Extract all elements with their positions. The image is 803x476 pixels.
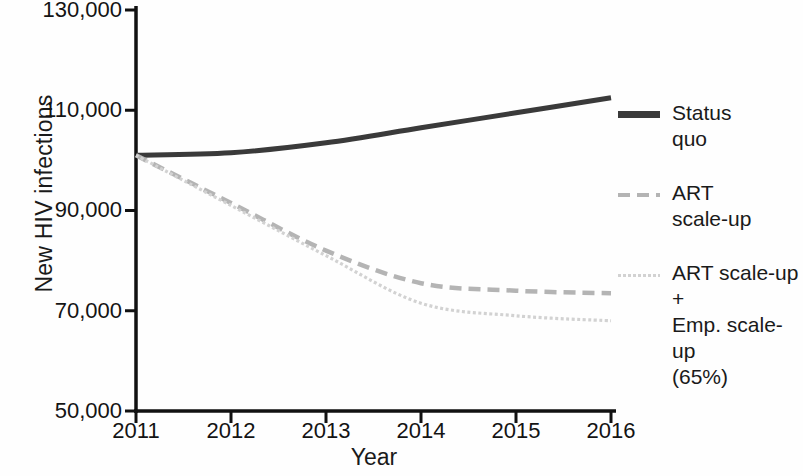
x-axis-ticks bbox=[136, 411, 611, 423]
series-line bbox=[136, 155, 611, 293]
dotted-line-swatch bbox=[618, 274, 660, 277]
legend-label-line: scale-up bbox=[672, 206, 803, 232]
legend-item-art-emp-scale-up: ART scale-up + Emp. scale-up (65%) bbox=[618, 260, 803, 390]
chart-legend: Status quo ART scale-up ART scale-up + E… bbox=[618, 100, 803, 410]
legend-label-line: Emp. scale-up bbox=[672, 312, 803, 364]
legend-item-label: ART scale-up bbox=[672, 180, 803, 232]
legend-label-line: (65%) bbox=[672, 364, 803, 390]
axis-lines bbox=[134, 6, 616, 413]
legend-label-line: ART scale-up + bbox=[672, 260, 803, 312]
chart-figure: New HIV infections 130,000 110,000 90,00… bbox=[0, 0, 803, 476]
dashed-line-swatch bbox=[618, 193, 660, 197]
legend-label-line: quo bbox=[672, 126, 803, 152]
data-series-lines bbox=[136, 98, 611, 321]
series-line bbox=[136, 98, 611, 156]
legend-label-line: ART bbox=[672, 180, 803, 206]
series-line bbox=[136, 155, 611, 320]
legend-item-art-scale-up: ART scale-up bbox=[618, 180, 803, 232]
legend-item-label: Status quo bbox=[672, 100, 803, 152]
legend-item-label: ART scale-up + Emp. scale-up (65%) bbox=[672, 260, 803, 390]
legend-item-status-quo: Status quo bbox=[618, 100, 803, 152]
solid-line-swatch bbox=[618, 111, 660, 118]
legend-label-line: Status bbox=[672, 100, 803, 126]
